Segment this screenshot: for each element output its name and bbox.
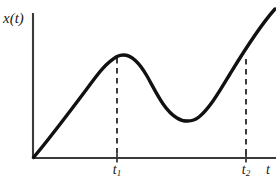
- y-axis-label: x(t): [3, 11, 24, 26]
- plot-area: [0, 0, 276, 180]
- x-axis-label: t: [266, 163, 270, 177]
- x-tick-label-t1: t1: [113, 163, 121, 178]
- curve-x-of-t: [34, 9, 276, 158]
- x-tick-label-t2: t2: [242, 163, 250, 178]
- figure-canvas: x(t) t1 t2 t: [0, 0, 276, 180]
